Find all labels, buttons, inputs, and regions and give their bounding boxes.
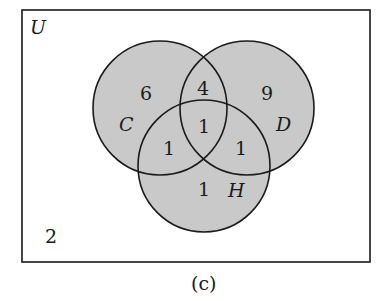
set-label-c: C (119, 113, 134, 135)
universe-label: U (30, 16, 47, 38)
set-label-d: D (275, 113, 291, 135)
set-label-h: H (227, 179, 245, 201)
region-c-d-h: 1 (198, 115, 210, 137)
caption: (c) (191, 272, 216, 294)
region-d-only: 9 (261, 82, 273, 104)
region-h-only: 1 (198, 178, 210, 200)
region-c-and-d: 4 (197, 77, 209, 99)
region-c-only: 6 (140, 82, 152, 104)
venn-diagram: U 6 9 4 1 1 1 1 C D H 2 (c) (0, 0, 377, 301)
region-d-and-h: 1 (235, 137, 247, 159)
outside-count: 2 (45, 225, 57, 247)
region-c-and-h: 1 (163, 137, 175, 159)
